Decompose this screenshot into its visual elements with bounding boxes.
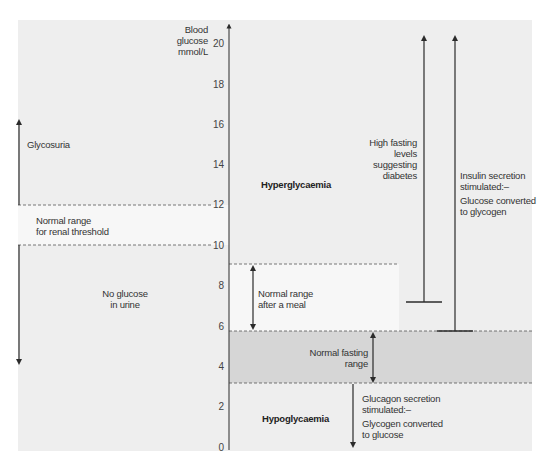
- axis-title-line: glucose: [170, 35, 208, 46]
- fasting-band: [229, 331, 532, 383]
- tick-18: 18: [208, 80, 224, 90]
- insulin-line: to glycogen: [460, 206, 536, 217]
- tick-6: 6: [208, 322, 224, 332]
- hypoglycaemia-label: Hypoglycaemia: [262, 413, 329, 424]
- glucagon-line: Glycogen converted: [362, 418, 443, 429]
- glucagon-line: stimulated:–: [362, 404, 443, 415]
- after-meal-label: Normal range after a meal: [258, 288, 313, 310]
- tick-10: 10: [208, 241, 224, 251]
- renal-threshold-label: Normal range for renal threshold: [36, 215, 109, 237]
- renal-threshold-line: Normal range: [36, 215, 109, 226]
- insulin-line: Insulin secretion: [460, 170, 536, 181]
- tick-16: 16: [208, 120, 224, 130]
- high-fasting-label: High fasting levels suggesting diabetes: [360, 137, 417, 181]
- after-meal-line: Normal range: [258, 288, 313, 299]
- tick-4: 4: [208, 362, 224, 372]
- after-meal-band: [229, 264, 399, 331]
- tick-0: 0: [208, 443, 224, 453]
- fasting-line: range: [300, 358, 368, 369]
- high-fasting-line: diabetes: [360, 170, 417, 181]
- fasting-label: Normal fasting range: [300, 347, 368, 369]
- tick-20: 20: [208, 39, 224, 49]
- insulin-line: Glucose converted: [460, 195, 536, 206]
- tick-8: 8: [208, 281, 224, 291]
- fasting-line: Normal fasting: [300, 347, 368, 358]
- tick-2: 2: [208, 402, 224, 412]
- glucagon-line: to glucose: [362, 429, 443, 440]
- glucagon-label: Glucagon secretion stimulated:– Glycogen…: [362, 393, 443, 440]
- insulin-label: Insulin secretion stimulated:– Glucose c…: [460, 170, 536, 217]
- axis-title: Blood glucose mmol/L: [170, 24, 208, 57]
- blood-glucose-diagram: Blood glucose mmol/L 20 18 16 14 12 10 8…: [0, 0, 545, 463]
- after-meal-line: after a meal: [258, 299, 313, 310]
- high-fasting-line: suggesting: [360, 159, 417, 170]
- glycosuria-label: Glycosuria: [27, 139, 70, 150]
- high-fasting-line: High fasting: [360, 137, 417, 148]
- insulin-line: stimulated:–: [460, 181, 536, 192]
- no-glucose-line: No glucose: [95, 288, 155, 299]
- no-glucose-line: in urine: [95, 299, 155, 310]
- no-glucose-label: No glucose in urine: [95, 288, 155, 310]
- axis-title-line: mmol/L: [170, 46, 208, 57]
- renal-threshold-line: for renal threshold: [36, 226, 109, 237]
- glucagon-line: Glucagon secretion: [362, 393, 443, 404]
- tick-14: 14: [208, 160, 224, 170]
- tick-12: 12: [208, 200, 224, 210]
- high-fasting-line: levels: [360, 148, 417, 159]
- hyperglycaemia-label: Hyperglycaemia: [261, 179, 331, 190]
- axis-title-line: Blood: [170, 24, 208, 35]
